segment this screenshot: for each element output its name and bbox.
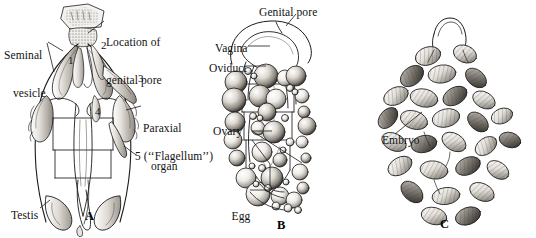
label-embryo: Embryo — [382, 134, 420, 146]
label-genital-pore: Genital pore — [259, 6, 317, 18]
vas-deferens-pair — [74, 104, 92, 216]
leader-seminal-vesicle-2 — [47, 43, 54, 72]
panel-letter-c: C — [440, 217, 449, 232]
panel-letter-a: A — [85, 209, 94, 224]
genital-pore-area — [69, 28, 97, 47]
label-paraxial-organ: Paraxial organ — [143, 97, 181, 197]
label-oviduct: Oviduct — [209, 62, 247, 74]
label-egg-follicles: Egg follicles — [212, 185, 270, 238]
terminal-bulb — [77, 226, 83, 237]
panel-c-drawing — [350, 0, 536, 238]
label-ovary: Ovary — [213, 125, 242, 137]
label-flagellum: 5 (‘‘Flagellum’’) — [135, 150, 213, 162]
testis-right — [94, 196, 121, 230]
label-seminal-vesicle-line2: vesicle — [4, 87, 46, 100]
label-testis: Testis — [11, 209, 38, 221]
label-genital-pore-a-line1: Location of — [106, 36, 162, 49]
panel-letter-b: B — [277, 218, 285, 233]
label-paraxial-organ-line1: Paraxial — [143, 122, 181, 135]
anatomical-figure: Seminal vesicle Location of genital pore… — [0, 0, 536, 238]
label-seminal-vesicle-line1: Seminal — [4, 49, 46, 62]
accessory-gland-pair — [73, 48, 93, 87]
callout-1: 1 — [68, 54, 74, 66]
label-genital-pore-a-line2: genital pore — [106, 74, 162, 87]
callout-2: 2 — [101, 39, 107, 51]
label-egg-follicles-line1: Egg — [212, 210, 270, 223]
label-seminal-vesicle: Seminal vesicle — [4, 24, 46, 124]
genital-pore-neck — [276, 22, 282, 33]
gnathosoma-shield — [61, 4, 104, 29]
leader-seminal-vesicle — [48, 42, 63, 51]
label-vagina: Vagina — [215, 42, 248, 54]
label-location-of-genital-pore: Location of genital pore — [106, 11, 162, 111]
callout-3: 3 — [138, 72, 144, 84]
callout-4: 4 — [95, 105, 101, 117]
